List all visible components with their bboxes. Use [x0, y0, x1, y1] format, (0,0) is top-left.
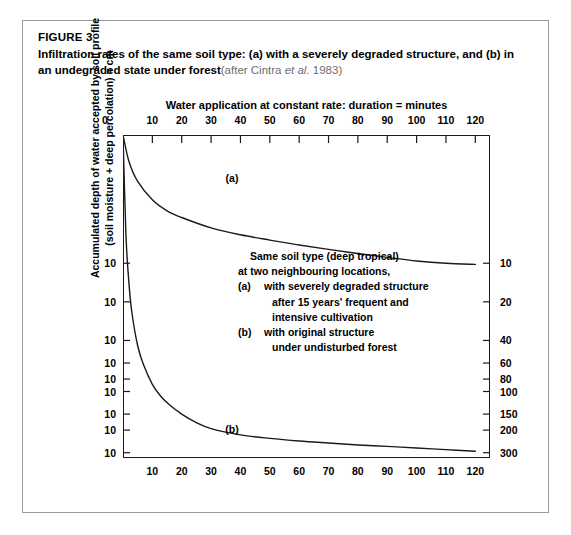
- y-axis-title-line2: (soil moisture + deep percolation) = cm: [102, 50, 116, 245]
- x-tick-label-top-70: 70: [323, 114, 335, 126]
- x-tick-label-top-110: 110: [437, 114, 454, 126]
- annotation-text-1: at two neighbouring locations,: [238, 265, 390, 277]
- x-tick-label-bottom-70: 70: [323, 465, 335, 477]
- annotation-text-2: with severely degraded structure: [264, 280, 429, 292]
- annotation-tag-a: (a): [238, 279, 264, 294]
- x-tick-label-bottom-100: 100: [408, 465, 426, 477]
- y-tick-label-right-200: 200: [500, 424, 518, 436]
- x-tick-label-bottom-60: 60: [293, 465, 305, 477]
- x-tick-label-top-120: 120: [467, 114, 485, 126]
- x-tick-label-bottom-90: 90: [381, 465, 393, 477]
- y-tick-label-right-80: 80: [500, 373, 512, 385]
- x-tick-label-top-80: 80: [352, 114, 364, 126]
- x-tick-label-bottom-30: 30: [205, 465, 217, 477]
- y-tick-label-right-40: 40: [500, 334, 512, 346]
- x-tick-label-bottom-40: 40: [235, 465, 247, 477]
- y-tick-label-right-100: 100: [500, 386, 518, 398]
- annotation-line-0: Same soil type (deep tropical): [238, 249, 468, 264]
- y-tick-label-left-2: 10: [104, 334, 116, 346]
- y-axis-right-tick-labels: 1020406080100150200300: [500, 0, 560, 535]
- x-axis-title-top: Water application at constant rate: dura…: [123, 99, 490, 111]
- annotation-text-0: Same soil type (deep tropical): [250, 250, 399, 262]
- y-tick-label-left-3: 10: [104, 357, 116, 369]
- annotation-line-1: at two neighbouring locations,: [238, 264, 468, 279]
- y-tick-label-right-20: 20: [500, 296, 512, 308]
- y-tick-label-right-10: 10: [500, 257, 512, 269]
- x-tick-label-top-20: 20: [176, 114, 188, 126]
- annotation-text-3: after 15 years' frequent and: [272, 296, 409, 308]
- annotation-text-4: intensive cultivation: [272, 311, 373, 323]
- figure-source-italic: et al.: [285, 64, 310, 76]
- figure-source-suffix: 1983): [310, 64, 343, 76]
- chart-annotation: Same soil type (deep tropical)at two nei…: [238, 249, 468, 355]
- annotation-line-4: intensive cultivation: [238, 310, 468, 325]
- x-tick-label-top-40: 40: [235, 114, 247, 126]
- x-tick-label-bottom-20: 20: [176, 465, 188, 477]
- x-tick-label-top-30: 30: [205, 114, 217, 126]
- y-tick-label-left-5: 10: [104, 386, 116, 398]
- curve-label-a: (a): [226, 172, 239, 184]
- annotation-line-5: (b)with original structure: [238, 325, 468, 340]
- x-tick-label-top-90: 90: [381, 114, 393, 126]
- y-tick-label-right-150: 150: [500, 408, 518, 420]
- x-tick-label-bottom-110: 110: [437, 465, 454, 477]
- x-tick-label-bottom-80: 80: [352, 465, 364, 477]
- y-axis-title: Accumulated depth of water accepted by s…: [84, 0, 120, 313]
- annotation-line-3: after 15 years' frequent and: [238, 295, 468, 310]
- figure-source: (after Cintra et al. 1983): [221, 64, 342, 76]
- y-tick-label-left-6: 10: [104, 408, 116, 420]
- annotation-line-6: under undisturbed forest: [238, 340, 468, 355]
- y-tick-label-right-60: 60: [500, 357, 512, 369]
- x-tick-label-top-50: 50: [264, 114, 276, 126]
- y-tick-label-right-300: 300: [500, 447, 518, 459]
- x-tick-label-top-60: 60: [293, 114, 305, 126]
- annotation-text-5: with original structure: [264, 326, 374, 338]
- annotation-line-2: (a)with severely degraded structure: [238, 279, 468, 294]
- figure-source-prefix: (after Cintra: [221, 64, 285, 76]
- x-tick-label-top-100: 100: [408, 114, 426, 126]
- x-tick-label-top-10: 10: [147, 114, 159, 126]
- curve-label-b: (b): [225, 423, 238, 435]
- y-tick-label-left-4: 10: [104, 373, 116, 385]
- x-tick-label-bottom-120: 120: [467, 465, 485, 477]
- annotation-tag-b: (b): [238, 325, 264, 340]
- x-tick-label-bottom-10: 10: [147, 465, 159, 477]
- y-tick-label-left-7: 10: [104, 424, 116, 436]
- x-tick-label-bottom-50: 50: [264, 465, 276, 477]
- y-axis-title-line1: Accumulated depth of water accepted by s…: [88, 18, 102, 278]
- y-tick-label-left-8: 10: [104, 447, 116, 459]
- annotation-text-6: under undisturbed forest: [272, 341, 397, 353]
